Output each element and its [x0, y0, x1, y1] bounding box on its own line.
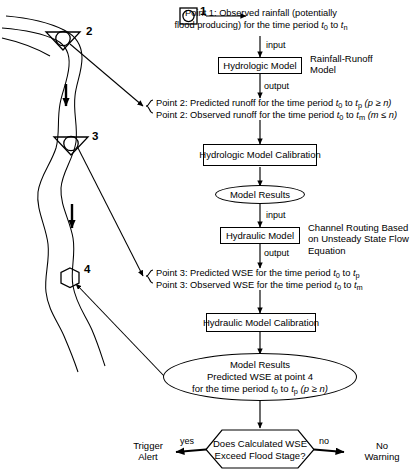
trigger-alert-line-1: Trigger [122, 440, 174, 451]
bracket-point3 [146, 270, 153, 283]
point-3-obs-to: to [341, 280, 354, 290]
point-3-pred-prefix: Point 3: Predicted WSE for the time peri… [156, 268, 333, 278]
decision-line-1: Does Calculated WSE [206, 438, 314, 450]
point-3-predicted-line: Point 3: Predicted WSE for the time peri… [156, 268, 363, 280]
point-2-pred-condition: (p ≥ n) [362, 98, 391, 108]
point-3-pred-t0-sub: 0 [336, 271, 340, 280]
point-1-tn-sub: n [343, 23, 347, 32]
point-1-t0-sub: 0 [324, 23, 328, 32]
hydraulic-model-label: Hydraulic Model [226, 231, 294, 241]
hydraulic-model-box: Hydraulic Model [220, 227, 300, 244]
model-results-2-line-1: Model Results [164, 359, 356, 371]
point-2-number: 2 [86, 26, 92, 38]
point-2-predicted-line: Point 2: Predicted runoff for the time p… [156, 98, 397, 110]
point-3-text: Point 3: Predicted WSE for the time peri… [156, 268, 363, 292]
model-results-2-condition: (p ≥ n) [298, 383, 328, 394]
rainfall-runoff-model-label: Rainfall-Runoff Model [310, 53, 373, 76]
no-warning-label: No Warning [352, 440, 412, 463]
point-2-pred-t0-sub: 0 [338, 101, 342, 110]
edge-label-output-1: output [264, 82, 289, 91]
no-warning-line-2: Warning [352, 451, 412, 462]
no-warning-line-1: No [352, 440, 412, 451]
hydraulic-model-calibration-label: Hydraulic Model Calibration [203, 318, 319, 328]
model-results-2-line-3: for the time period t0 to tp (p ≥ n) [164, 383, 356, 395]
point-3-marker-circle-in-triangle-icon [54, 136, 88, 155]
point-2-pred-tp-sub: p [358, 101, 362, 110]
point-3-obs-tm-sub: m [357, 283, 363, 292]
point-3-pred-tp-sub: p [355, 271, 359, 280]
decision-yes-arrow [176, 450, 206, 453]
edge-label-yes: yes [180, 437, 194, 446]
hydraulic-model-calibration-box: Hydraulic Model Calibration [206, 313, 316, 332]
hydrologic-model-calibration-label: Hydrologic Model Calibration [199, 150, 320, 160]
channel-routing-label: Channel Routing Based on Unsteady State … [308, 222, 409, 256]
leader-results-to-point4 [76, 284, 165, 377]
point-2-obs-t0-sub: 0 [339, 113, 343, 122]
edge-label-input-1: input [266, 41, 286, 50]
point-2-pred-prefix: Point 2: Predicted runoff for the time p… [156, 98, 336, 108]
model-results-2-t0-sub: 0 [274, 387, 278, 396]
decision-line-2: Exceed Flood Stage? [206, 450, 314, 462]
river-map-graphic [2, 16, 105, 372]
model-results-2-to: to [278, 383, 291, 394]
hydrologic-model-box: Hydrologic Model [218, 57, 302, 74]
decision-no-arrow [314, 450, 344, 453]
point-2-obs-tm-sub: m [359, 113, 365, 122]
rainfall-runoff-line-2: Model [310, 64, 373, 75]
point-3-pred-to: to [340, 268, 353, 278]
point-3-observed-line: Point 3: Observed WSE for the time perio… [156, 280, 363, 292]
decision-text: Does Calculated WSE Exceed Flood Stage? [206, 438, 314, 462]
edge-label-no: no [319, 437, 329, 446]
point-3-obs-t0-sub: 0 [337, 283, 341, 292]
hydrologic-model-label: Hydrologic Model [223, 61, 296, 71]
leader-point2-to-text [70, 44, 143, 106]
leader-point3-to-text [78, 148, 143, 276]
edge-label-input-2: input [266, 211, 286, 220]
edge-label-output-2: output [264, 249, 289, 258]
point-2-obs-condition: (m ≤ n) [365, 110, 397, 120]
point-2-observed-line: Point 2: Observed runoff for the time pe… [156, 110, 397, 122]
bracket-point2 [146, 100, 153, 113]
channel-routing-line-2: on Unsteady State Flow [308, 233, 409, 244]
point-4-number: 4 [84, 264, 90, 276]
point-1-line-2-prefix: flood producing) for the time period [174, 20, 321, 30]
point-2-obs-prefix: Point 2: Observed runoff for the time pe… [156, 110, 337, 120]
model-results-2-line-2: Predicted WSE at point 4 [164, 371, 356, 383]
point-2-text: Point 2: Predicted runoff for the time p… [156, 98, 397, 122]
channel-routing-line-1: Channel Routing Based [308, 222, 409, 233]
rainfall-runoff-line-1: Rainfall-Runoff [310, 53, 373, 64]
point-1-line-1: Point 1: Observed rainfall (potentially [185, 8, 337, 18]
hydrologic-model-calibration-box: Hydrologic Model Calibration [203, 144, 317, 166]
model-results-ellipse-1: Model Results [215, 185, 305, 204]
model-results-2-prefix: for the time period [192, 383, 271, 394]
channel-routing-line-3: Equation [308, 245, 409, 256]
point-1-to: to [328, 20, 341, 30]
point-2-marker-circle-in-triangle-icon [46, 31, 80, 50]
point-3-obs-prefix: Point 3: Observed WSE for the time perio… [156, 280, 334, 290]
trigger-alert-label: Trigger Alert [122, 440, 174, 463]
point-2-obs-to: to [343, 110, 356, 120]
model-results-ellipse-2: Model Results Predicted WSE at point 4 f… [163, 353, 357, 401]
point-3-number: 3 [92, 131, 98, 143]
model-results-2-tp-sub: p [294, 387, 298, 396]
point-1-text: Point 1: Observed rainfall (potentially … [156, 8, 366, 32]
diagram-canvas: 1 2 3 4 Point 1: Observed rainfall (pote… [0, 0, 419, 471]
point-2-pred-to: to [342, 98, 355, 108]
trigger-alert-line-2: Alert [122, 451, 174, 462]
model-results-1-label: Model Results [230, 189, 290, 201]
